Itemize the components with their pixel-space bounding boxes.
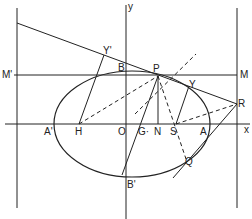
label-h: H [75,127,82,137]
label-a-prime: A' [44,127,53,137]
label-y: Y [189,80,196,90]
focal-radius-sp-extended [135,54,196,114]
perpendicular-sy [176,86,189,124]
label-o: O [118,127,126,137]
focal-chord-pq [158,76,186,159]
label-m: M [240,70,248,80]
label-p: P [153,64,160,74]
label-b-prime: B' [127,180,136,190]
tangent-at-p [17,23,237,104]
label-g: G· [138,127,149,137]
label-r: R [238,99,245,109]
label-b: B [118,63,125,73]
label-m-prime: M' [2,70,12,80]
label-n: N [154,127,161,137]
perpendicular-hy-prime [79,55,104,124]
label-s: S [170,127,177,137]
label-y-prime: Y' [103,46,112,56]
ellipse-diagram: y x M' M Y' Y B B' P R A' A H O G· N S Q [0,0,252,219]
label-x-axis: x [244,125,249,135]
focal-radius-hp [79,76,158,124]
label-y-axis: y [128,2,133,12]
tangent-at-q [173,104,237,178]
label-q: Q [185,157,193,167]
diagram-canvas [0,0,252,219]
label-a: A [200,127,207,137]
